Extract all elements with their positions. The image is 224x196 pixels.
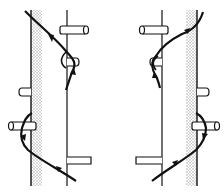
left-arrow-upper	[48, 34, 54, 42]
right-panel	[136, 10, 220, 186]
right-arrow-lower	[202, 133, 208, 140]
left-bracket	[67, 157, 91, 164]
left-upper-peg	[60, 26, 89, 34]
left-rope-loop-top	[62, 52, 67, 68]
right-upper-peg	[140, 26, 169, 34]
diagram-canvas	[0, 0, 224, 196]
right-stippled-rail	[186, 10, 197, 186]
right-bracket	[136, 157, 162, 164]
left-panel	[9, 10, 92, 186]
left-outer-small-peg	[19, 88, 31, 96]
right-outer-small-peg	[197, 88, 209, 96]
rope-routing-diagram	[0, 0, 224, 196]
